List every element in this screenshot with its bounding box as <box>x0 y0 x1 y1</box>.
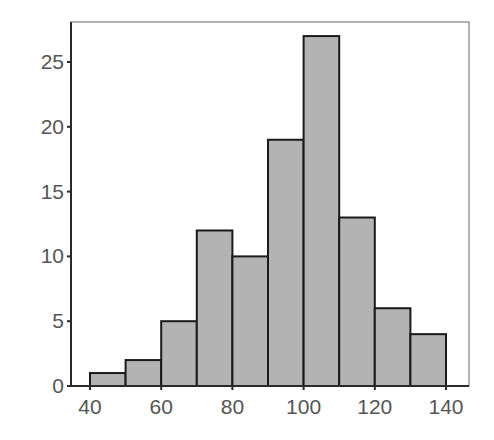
histogram-bar <box>375 308 411 386</box>
histogram-bar <box>161 321 197 386</box>
histogram-bar <box>197 230 233 386</box>
x-tick-label: 100 <box>286 395 321 418</box>
histogram-bar <box>304 36 340 386</box>
histogram-chart: 0510152025 406080100120140 <box>0 0 494 440</box>
histogram-bar <box>90 373 126 386</box>
y-tick-label: 0 <box>52 374 64 397</box>
y-tick-label: 20 <box>41 115 64 138</box>
x-tick-label: 80 <box>221 395 244 418</box>
x-tick-label: 140 <box>428 395 463 418</box>
y-tick-label: 25 <box>41 50 64 73</box>
x-tick-label: 60 <box>150 395 173 418</box>
histogram-bar <box>339 218 375 386</box>
x-tick-label: 40 <box>78 395 101 418</box>
histogram-bar <box>268 140 304 386</box>
y-tick-label: 5 <box>52 309 64 332</box>
y-tick-label: 15 <box>41 180 64 203</box>
histogram-bar <box>126 360 162 386</box>
histogram-bar <box>410 334 446 386</box>
x-tick-label: 120 <box>357 395 392 418</box>
y-axis-ticks: 0510152025 <box>41 50 71 397</box>
x-axis-ticks: 406080100120140 <box>78 386 463 418</box>
y-tick-label: 10 <box>41 244 64 267</box>
histogram-bar <box>232 256 268 386</box>
